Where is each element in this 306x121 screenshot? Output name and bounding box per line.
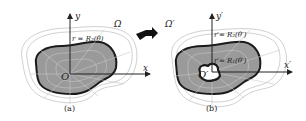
inner-boundary-label-b: r′= R₁(θ′) [214, 57, 247, 65]
y-axis-label-b: y′ [215, 11, 223, 21]
region-label-a: Ω [113, 19, 122, 29]
mapping-diagram: y x O Ω r = R₂(θ) (a) y′ x′ O′ Ω′ r′= R₂… [0, 0, 306, 121]
region-a [36, 42, 117, 94]
origin-label-a: O [61, 71, 69, 82]
region-label-b: Ω′ [164, 19, 175, 29]
transform-arrow-icon [136, 27, 158, 40]
x-axis-label-b: x′ [284, 60, 291, 70]
outer-boundary-label-b: r′= R₂(θ′) [214, 31, 247, 39]
x-axis-label-a: x [143, 63, 148, 73]
caption-a: (a) [64, 104, 75, 113]
caption-b: (b) [206, 104, 217, 113]
boundary-label-a: r = R₂(θ) [72, 35, 104, 43]
panel-b: y′ x′ O′ Ω′ r′= R₂(θ′) r′= R₁(θ′) (b) [164, 11, 292, 113]
panel-a: y x O Ω r = R₂(θ) (a) [22, 11, 150, 113]
y-axis-label-a: y [74, 11, 81, 21]
origin-label-b: O′ [198, 69, 209, 80]
